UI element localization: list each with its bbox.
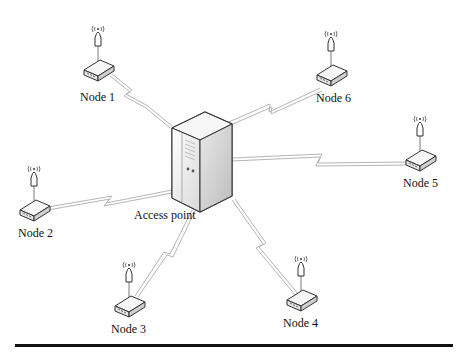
node-1-label: Node 1 [80, 90, 115, 105]
router-icon-node-3 [115, 262, 145, 317]
router-icon-node-4 [287, 256, 317, 311]
router-icon-node-2 [20, 166, 50, 221]
node-6-label: Node 6 [316, 91, 351, 106]
link-node-4 [232, 200, 296, 296]
node-2-label: Node 2 [18, 226, 53, 241]
node-3-label: Node 3 [111, 322, 146, 337]
node-5-label: Node 5 [403, 176, 438, 191]
router-icon-node-6 [317, 31, 347, 86]
access-point-label: Access point [134, 208, 196, 223]
router-icon-node-1 [84, 26, 114, 81]
link-node-5 [232, 154, 412, 163]
link-node-6 [215, 88, 320, 128]
network-diagram [0, 0, 468, 354]
router-icon-node-5 [406, 116, 436, 171]
access-point-server-icon [172, 112, 232, 212]
node-4-label: Node 4 [283, 316, 318, 331]
bottom-rule [15, 344, 453, 347]
